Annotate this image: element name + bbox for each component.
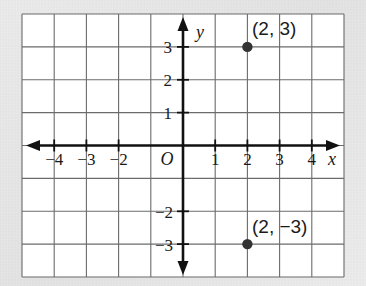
x-tick-label-4: 4: [308, 150, 317, 169]
data-point-label-2-3: (2, 3): [252, 18, 296, 39]
y-axis-label: y: [194, 22, 204, 42]
y-tick-label-3: 3: [164, 38, 173, 57]
y-tick-label-neg3: −3: [155, 236, 173, 255]
coordinate-plane-figure: −4 −3 −2 1 2 3 4 3 2 1 −2 −3 O x y (2, 3…: [0, 0, 366, 286]
y-tick-label-2: 2: [164, 71, 173, 90]
x-tick-label-neg3: −3: [77, 150, 95, 169]
y-tick-label-neg2: −2: [155, 203, 173, 222]
y-tick-label-1: 1: [164, 104, 173, 123]
data-point-label-2-neg3: (2, −3): [252, 216, 307, 237]
x-tick-label-neg2: −2: [110, 150, 128, 169]
data-point-2-3[interactable]: [242, 42, 252, 52]
coordinate-plane-svg: −4 −3 −2 1 2 3 4 3 2 1 −2 −3 O x y (2, 3…: [0, 0, 366, 286]
data-point-2-neg3[interactable]: [242, 239, 252, 249]
origin-label: O: [161, 149, 174, 169]
x-tick-label-1: 1: [211, 150, 220, 169]
x-tick-label-2: 2: [243, 150, 252, 169]
x-tick-label-3: 3: [275, 150, 284, 169]
x-tick-label-neg4: −4: [45, 150, 64, 169]
x-axis-label: x: [327, 149, 336, 169]
